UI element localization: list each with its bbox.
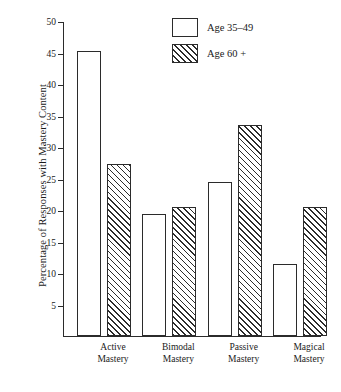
x-axis-category-label: MagicalMastery — [269, 342, 341, 365]
bar — [238, 125, 262, 336]
bar — [107, 164, 131, 336]
y-tick-label: 40 — [47, 85, 57, 86]
bar-group: ActiveMastery — [77, 22, 131, 336]
bar — [77, 51, 101, 336]
y-tick-label: 20 — [47, 211, 57, 212]
y-tick-label: 10 — [47, 274, 57, 275]
y-tick-label: 15 — [47, 243, 57, 244]
bar — [303, 207, 327, 336]
y-tick-label: 45 — [47, 54, 57, 55]
bar — [273, 264, 297, 336]
bar-chart-figure: Percentage of Responses with Mastery Con… — [0, 0, 341, 392]
x-axis-category-label-line: Magical — [269, 342, 341, 354]
open-square-icon — [172, 18, 198, 37]
legend-item-age-35-49: Age 35–49 — [172, 18, 253, 37]
x-axis-category-label-line: Mastery — [269, 354, 341, 366]
legend-item-age-60-plus: Age 60 + — [172, 44, 253, 63]
legend-label: Age 35–49 — [207, 22, 253, 33]
y-tick-label: 5 — [51, 306, 56, 307]
y-axis-title: Percentage of Responses with Mastery Con… — [37, 56, 48, 316]
bar — [172, 207, 196, 336]
hatched-square-icon — [172, 44, 198, 63]
y-tick-label: 35 — [47, 117, 57, 118]
y-tick-label: 50 — [47, 22, 57, 23]
legend: Age 35–49 Age 60 + — [172, 18, 253, 70]
bar — [208, 182, 232, 336]
bar — [142, 214, 166, 336]
legend-label: Age 60 + — [207, 48, 246, 59]
x-axis-line — [63, 336, 321, 337]
y-tick-label: 30 — [47, 148, 57, 149]
bar-group: MagicalMastery — [273, 22, 327, 336]
y-tick-label: 25 — [47, 180, 57, 181]
